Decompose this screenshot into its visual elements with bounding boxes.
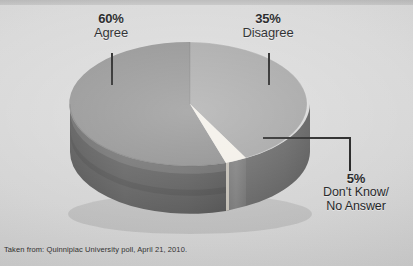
pie-svg (0, 0, 413, 266)
pie-chart-graphic (0, 0, 413, 266)
slice-name-dontknow-line2: No Answer (300, 200, 412, 214)
slice-label-agree: 60% Agree (78, 12, 144, 40)
slice-name-dontknow-line1: Don't Know/ (300, 186, 412, 200)
slice-percent-disagree: 35% (222, 12, 314, 26)
leader-line-agree (111, 53, 113, 85)
leader-line-dontknow-vertical (349, 137, 351, 171)
slice-label-disagree: 35% Disagree (222, 12, 314, 40)
pie-side-dontknow (226, 162, 229, 211)
source-attribution: Taken from: Quinnipiac University poll, … (4, 245, 187, 254)
slice-name-agree: Agree (78, 26, 144, 40)
slice-label-dontknow: 5% Don't Know/ No Answer (300, 172, 412, 213)
leader-line-disagree (268, 53, 270, 85)
leader-line-dontknow-horizontal (263, 137, 351, 139)
pie-chart-slide: 60% Agree 35% Disagree 5% Don't Know/ No… (0, 0, 413, 266)
slice-percent-agree: 60% (78, 12, 144, 26)
slice-percent-dontknow: 5% (300, 172, 412, 186)
slice-name-disagree: Disagree (222, 26, 314, 40)
